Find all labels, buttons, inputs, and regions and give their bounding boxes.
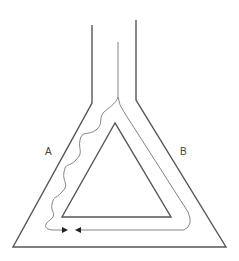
branched-flow-diagram: A B bbox=[0, 0, 239, 261]
label-B: B bbox=[180, 146, 187, 157]
label-A: A bbox=[45, 146, 52, 157]
arrowhead-left-icon bbox=[75, 227, 81, 233]
path-branch-A bbox=[46, 97, 118, 230]
inner-triangle bbox=[62, 123, 171, 217]
arrowhead-right-icon bbox=[62, 227, 68, 233]
path-branch-B bbox=[80, 97, 190, 230]
outer-funnel-left bbox=[13, 20, 226, 247]
